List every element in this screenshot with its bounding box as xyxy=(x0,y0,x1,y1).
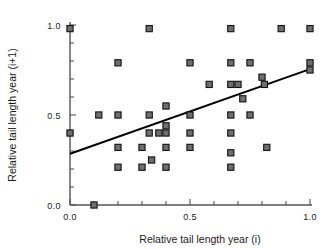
data-point-marker xyxy=(163,130,169,136)
data-point-marker xyxy=(261,81,267,87)
data-point-marker xyxy=(67,130,73,136)
data-point-marker xyxy=(228,81,234,87)
data-point-marker xyxy=(149,157,155,163)
data-point-marker xyxy=(228,130,234,136)
data-point-marker xyxy=(228,112,234,118)
y-axis-title: Relative tail length year (i+1) xyxy=(6,48,18,181)
data-point-marker xyxy=(91,202,97,208)
data-point-marker xyxy=(115,112,121,118)
data-point-marker xyxy=(187,130,193,136)
data-point-marker xyxy=(307,67,313,73)
data-point-marker xyxy=(139,144,145,150)
data-point-marker xyxy=(115,60,121,66)
data-point-marker xyxy=(307,60,313,66)
data-point-marker xyxy=(156,130,162,136)
data-point-marker xyxy=(228,26,234,32)
data-point-marker xyxy=(146,130,152,136)
data-point-marker xyxy=(163,103,169,109)
y-tick-label: 1.0 xyxy=(47,21,61,31)
data-point-marker xyxy=(146,112,152,118)
data-point-marker xyxy=(228,60,234,66)
data-point-marker xyxy=(259,74,265,80)
y-tick-label: 0.0 xyxy=(47,201,61,211)
data-point-marker xyxy=(307,26,313,32)
data-point-marker xyxy=(139,164,145,170)
data-point-marker xyxy=(247,60,253,66)
data-point-marker xyxy=(187,112,193,118)
scatter-plot-figure: 0.00.51.00.00.51.0Relative tail length y… xyxy=(0,0,330,249)
data-point-marker xyxy=(206,81,212,87)
data-point-marker xyxy=(228,164,234,170)
data-point-marker xyxy=(163,123,169,129)
data-point-marker xyxy=(264,144,270,150)
data-point-marker xyxy=(115,164,121,170)
x-tick-label: 1.0 xyxy=(303,212,317,222)
data-point-marker xyxy=(187,144,193,150)
data-point-marker xyxy=(115,144,121,150)
data-point-marker xyxy=(235,81,241,87)
data-point-marker xyxy=(278,26,284,32)
data-point-marker xyxy=(67,26,73,32)
data-point-marker xyxy=(163,144,169,150)
x-tick-label: 0.5 xyxy=(183,212,197,222)
x-tick-label: 0.0 xyxy=(63,212,77,222)
data-point-marker xyxy=(163,164,169,170)
x-axis-title: Relative tail length year (i) xyxy=(139,233,260,245)
data-point-marker xyxy=(240,96,246,102)
y-tick-label: 0.5 xyxy=(47,111,61,121)
data-point-marker xyxy=(228,150,234,156)
data-point-marker xyxy=(146,26,152,32)
data-point-marker xyxy=(247,112,253,118)
data-point-marker xyxy=(96,112,102,118)
data-point-marker xyxy=(187,60,193,66)
